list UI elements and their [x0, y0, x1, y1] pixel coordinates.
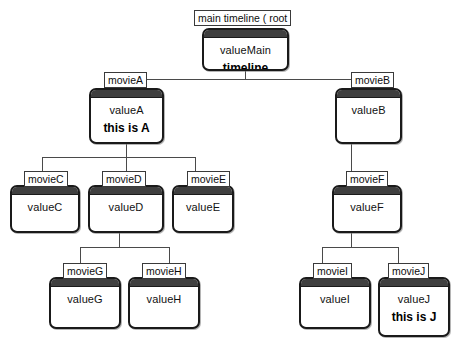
connector-to-movieI — [322, 247, 323, 263]
node-root[interactable]: valueMain timeline — [202, 28, 289, 71]
connector-cde-bus — [42, 157, 195, 158]
node-movieJ-titlebar — [380, 279, 448, 287]
label-movieH[interactable]: movieH — [142, 263, 186, 279]
node-movieE-body: valueE — [174, 195, 232, 231]
node-movieH[interactable]: valueH — [128, 277, 200, 329]
node-root-body: valueMain timeline — [204, 38, 287, 69]
node-movieE-titlebar — [174, 187, 232, 195]
label-movieJ[interactable]: movieJ — [388, 263, 429, 279]
node-movieD-value: valueD — [109, 201, 144, 214]
connector-to-movieC — [42, 157, 43, 171]
connector-f-stem — [351, 233, 352, 247]
connector-ij-bus — [322, 247, 398, 248]
node-movieI-body: valueI — [301, 287, 369, 327]
label-movieE[interactable]: movieE — [187, 171, 230, 187]
node-movieH-body: valueH — [130, 287, 198, 327]
node-movieB-value: valueB — [351, 104, 385, 117]
node-movieF-value: valueF — [350, 201, 384, 214]
node-movieJ-note: this is J — [392, 310, 437, 324]
diagram-canvas: valueMain timeline main timeline ( root … — [0, 0, 456, 346]
node-movieJ-body: valueJ this is J — [380, 287, 448, 335]
connector-to-movieE — [195, 157, 196, 171]
label-movieI[interactable]: movieI — [313, 263, 352, 279]
node-movieF-body: valueF — [334, 195, 400, 231]
label-movieA[interactable]: movieA — [104, 72, 147, 88]
connector-to-movieD — [126, 157, 127, 171]
node-movieI-value: valueI — [320, 293, 350, 306]
node-movieA[interactable]: valueA this is A — [89, 88, 164, 144]
node-movieA-titlebar — [91, 90, 162, 98]
node-movieC-body: valueC — [12, 195, 78, 231]
connector-level1-bus — [133, 79, 356, 80]
connector-b-to-movieF — [351, 143, 352, 171]
connector-a-stem — [126, 143, 127, 157]
node-movieA-body: valueA this is A — [91, 98, 162, 142]
node-movieA-value: valueA — [109, 104, 143, 117]
node-movieD-body: valueD — [90, 195, 162, 231]
label-movieG[interactable]: movieG — [63, 263, 107, 279]
node-movieC-value: valueC — [28, 201, 63, 214]
node-movieC-titlebar — [12, 187, 78, 195]
node-movieG-value: valueG — [67, 293, 102, 306]
connector-gh-bus — [80, 247, 169, 248]
node-movieJ[interactable]: valueJ this is J — [378, 277, 450, 337]
node-movieF-titlebar — [334, 187, 400, 195]
node-movieE-value: valueE — [186, 201, 220, 214]
node-movieA-note: this is A — [103, 121, 149, 135]
node-root-value: valueMain — [220, 44, 271, 57]
node-movieD-titlebar — [90, 187, 162, 195]
connector-to-movieH — [169, 247, 170, 263]
connector-d-stem — [119, 233, 120, 247]
node-movieC[interactable]: valueC — [10, 185, 80, 233]
node-movieB-titlebar — [337, 90, 400, 98]
node-movieB-body: valueB — [337, 98, 400, 142]
label-root[interactable]: main timeline ( root — [194, 10, 291, 26]
connector-root-stem — [245, 70, 246, 79]
label-movieC[interactable]: movieC — [24, 171, 68, 187]
node-movieH-titlebar — [130, 279, 198, 287]
node-movieF[interactable]: valueF — [332, 185, 402, 233]
node-movieI-titlebar — [301, 279, 369, 287]
node-movieG[interactable]: valueG — [49, 277, 121, 329]
node-movieG-titlebar — [51, 279, 119, 287]
connector-to-movieJ — [398, 247, 399, 263]
label-movieB[interactable]: movieB — [351, 72, 394, 88]
node-movieD[interactable]: valueD — [88, 185, 164, 233]
connector-to-movieG — [80, 247, 81, 263]
label-movieD[interactable]: movieD — [102, 171, 146, 187]
node-root-note: timeline — [223, 61, 268, 71]
node-movieH-value: valueH — [147, 293, 182, 306]
node-movieB[interactable]: valueB — [335, 88, 402, 144]
node-movieE[interactable]: valueE — [172, 185, 234, 233]
label-movieF[interactable]: movieF — [346, 171, 388, 187]
node-movieI[interactable]: valueI — [299, 277, 371, 329]
node-movieG-body: valueG — [51, 287, 119, 327]
node-root-titlebar — [204, 30, 287, 38]
node-movieJ-value: valueJ — [398, 293, 430, 306]
